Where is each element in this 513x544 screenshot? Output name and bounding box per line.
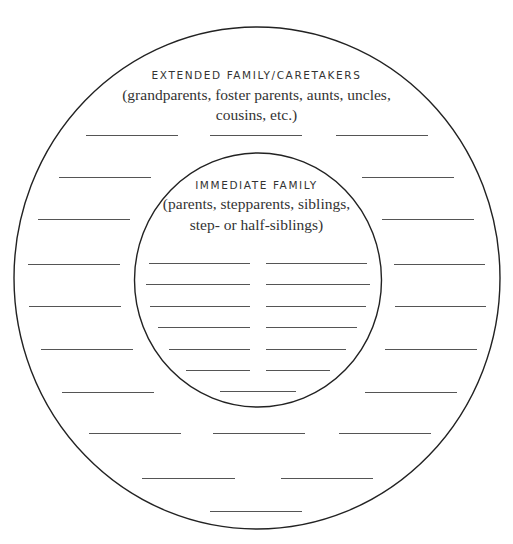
outer-ring-blank-line[interactable] xyxy=(385,349,477,350)
inner-circle-blank-line[interactable] xyxy=(146,284,250,285)
outer-ring-blank-line[interactable] xyxy=(89,433,181,434)
inner-circle xyxy=(135,153,382,407)
outer-ring-blank-line[interactable] xyxy=(382,219,474,220)
inner-circle-blank-line[interactable] xyxy=(266,263,367,264)
outer-ring-blank-line[interactable] xyxy=(365,392,457,393)
outer-ring-blank-line[interactable] xyxy=(336,135,428,136)
outer-ring-blank-line[interactable] xyxy=(362,177,454,178)
inner-circle-description-line-1: (parents, stepparents, siblings, xyxy=(0,194,513,214)
outer-ring-description-line-1: (grandparents, foster parents, aunts, un… xyxy=(0,85,513,105)
inner-circle-description-line-2: step- or half-siblings) xyxy=(0,215,513,235)
outer-ring-blank-line[interactable] xyxy=(86,135,178,136)
outer-ring-blank-line[interactable] xyxy=(213,433,305,434)
outer-ring-blank-line[interactable] xyxy=(62,392,154,393)
outer-ring-blank-line[interactable] xyxy=(210,135,302,136)
inner-circle-blank-line[interactable] xyxy=(266,284,370,285)
inner-circle-blank-line[interactable] xyxy=(266,306,366,307)
outer-ring-blank-line[interactable] xyxy=(59,177,151,178)
outer-ring-blank-line[interactable] xyxy=(38,219,130,220)
outer-ring-blank-line[interactable] xyxy=(395,306,486,307)
outer-ring-heading: EXTENDED FAMILY/CARETAKERS xyxy=(0,69,513,81)
inner-circle-blank-line[interactable] xyxy=(169,349,250,350)
inner-circle-blank-line[interactable] xyxy=(266,327,357,328)
inner-circle-blank-line[interactable] xyxy=(220,391,296,392)
inner-circle-blank-line[interactable] xyxy=(266,349,346,350)
inner-circle-blank-line[interactable] xyxy=(149,263,250,264)
outer-ring-blank-line[interactable] xyxy=(28,264,120,265)
family-circles-diagram: EXTENDED FAMILY/CARETAKERS (grandparents… xyxy=(0,0,513,544)
outer-ring-blank-line[interactable] xyxy=(142,478,235,479)
outer-ring-blank-line[interactable] xyxy=(41,349,133,350)
outer-ring-blank-line[interactable] xyxy=(29,306,121,307)
outer-ring-description-line-2: cousins, etc.) xyxy=(0,105,513,125)
outer-ring-blank-line[interactable] xyxy=(339,433,431,434)
inner-circle-blank-line[interactable] xyxy=(266,370,330,371)
inner-circle-blank-line[interactable] xyxy=(186,370,250,371)
outer-ring-blank-line[interactable] xyxy=(210,511,302,512)
outer-ring-blank-line[interactable] xyxy=(394,264,485,265)
circles-svg xyxy=(0,0,513,544)
outer-ring-blank-line[interactable] xyxy=(281,478,373,479)
inner-circle-blank-line[interactable] xyxy=(158,327,250,328)
inner-circle-blank-line[interactable] xyxy=(150,306,250,307)
inner-circle-heading: IMMEDIATE FAMILY xyxy=(0,179,513,191)
